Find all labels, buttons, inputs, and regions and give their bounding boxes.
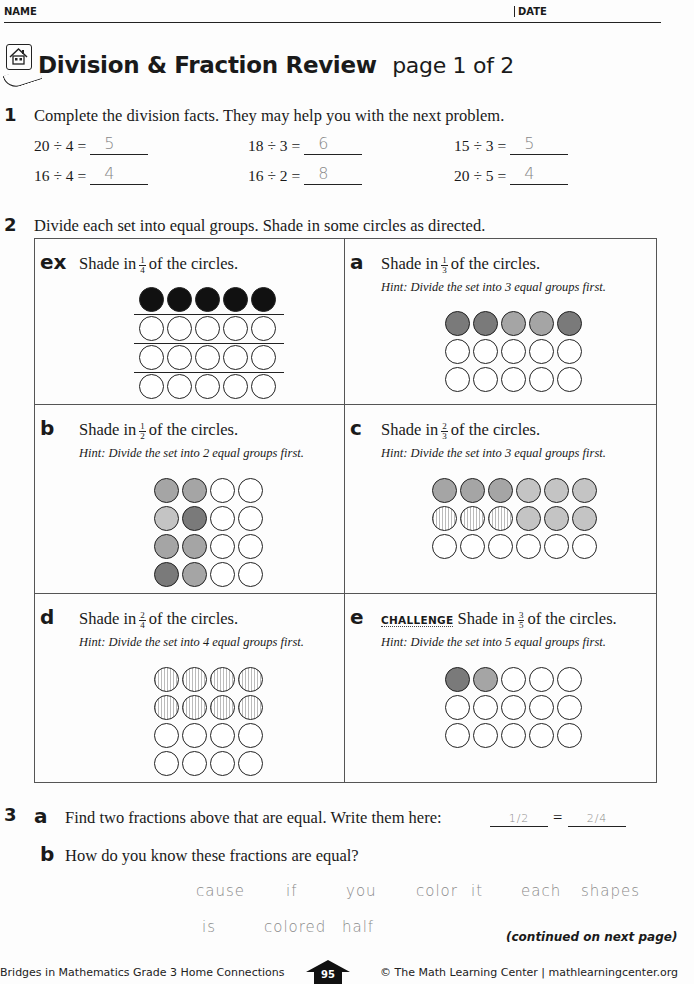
circle <box>210 695 235 720</box>
circle <box>182 751 207 776</box>
answer-field[interactable]: 4 <box>90 164 148 185</box>
circle <box>544 534 569 559</box>
circle <box>210 506 235 531</box>
circle <box>182 506 207 531</box>
circle <box>572 534 597 559</box>
circle <box>529 339 554 364</box>
circle <box>195 345 220 370</box>
circle <box>473 695 498 720</box>
circle <box>557 367 582 392</box>
circle <box>529 667 554 692</box>
circle <box>445 311 470 336</box>
circle <box>572 506 597 531</box>
circle <box>445 339 470 364</box>
cell-e-instruction: CHALLENGE Shade in35of the circles. <box>381 609 617 630</box>
circle <box>460 534 485 559</box>
circle <box>501 339 526 364</box>
circle <box>182 534 207 559</box>
circle <box>473 723 498 748</box>
circle <box>460 478 485 503</box>
circle-set-d <box>154 667 263 776</box>
circle <box>210 667 235 692</box>
cell-d-hint: Hint: Divide the set into 4 equal groups… <box>79 635 304 650</box>
name-label: NAME <box>4 6 37 17</box>
circle <box>445 367 470 392</box>
circle <box>432 534 457 559</box>
circle <box>210 562 235 587</box>
q3a-answer-1[interactable]: 1/2 <box>490 808 548 827</box>
circle <box>195 287 220 312</box>
circle <box>182 562 207 587</box>
cell-c-instruction: Shade in23of the circles. <box>381 420 540 441</box>
circle <box>501 695 526 720</box>
circle <box>445 667 470 692</box>
answer-field[interactable]: 6 <box>304 134 362 155</box>
circle <box>223 345 248 370</box>
circle <box>251 316 276 341</box>
answer-field[interactable]: 4 <box>510 164 568 185</box>
circle <box>529 311 554 336</box>
date-label: DATE <box>514 6 547 17</box>
circle <box>167 374 192 399</box>
circle <box>501 723 526 748</box>
circle <box>154 562 179 587</box>
continued-note: (continued on next page) <box>506 930 677 944</box>
cell-e-letter: e <box>350 605 364 629</box>
circle <box>544 506 569 531</box>
q3-number: 3 <box>4 804 17 825</box>
circle <box>238 562 263 587</box>
circle <box>529 723 554 748</box>
group-line <box>134 314 284 315</box>
q3b-answer-line-2[interactable]: is colored half <box>202 918 374 936</box>
circle <box>154 695 179 720</box>
circle <box>445 695 470 720</box>
circle <box>182 695 207 720</box>
circle <box>501 667 526 692</box>
group-line <box>134 343 284 344</box>
q3a-answer-2[interactable]: 2/4 <box>568 808 626 827</box>
fact-6: 20 ÷ 5 =4 <box>454 164 568 185</box>
circle <box>473 311 498 336</box>
answer-field[interactable]: 5 <box>90 134 148 155</box>
fact-2: 18 ÷ 3 =6 <box>248 134 362 155</box>
circle <box>238 478 263 503</box>
page-number: 95 <box>306 969 350 980</box>
circle <box>238 506 263 531</box>
cell-b-instruction: Shade in12of the circles. <box>79 420 238 441</box>
cell-b-hint: Hint: Divide the set into 2 equal groups… <box>79 446 304 461</box>
circle <box>488 534 513 559</box>
circle <box>154 667 179 692</box>
circle <box>473 339 498 364</box>
cell-c-hint: Hint: Divide the set into 3 equal groups… <box>381 446 606 461</box>
answer-field[interactable]: 8 <box>304 164 362 185</box>
circle <box>544 478 569 503</box>
name-date-line <box>4 22 661 23</box>
q3b-letter: b <box>40 842 54 866</box>
cell-a-instruction: Shade in13of the circles. <box>381 254 540 275</box>
circle <box>195 374 220 399</box>
q3b-answer-line-1[interactable]: cause if you color it each shapes <box>196 882 640 900</box>
circle <box>167 316 192 341</box>
answer-field[interactable]: 5 <box>510 134 568 155</box>
circle <box>501 311 526 336</box>
circle <box>238 751 263 776</box>
circle <box>182 723 207 748</box>
circle <box>251 374 276 399</box>
grid-divider-row2 <box>34 593 657 594</box>
circle <box>167 287 192 312</box>
circle <box>154 478 179 503</box>
q3a-equals: = <box>553 808 562 828</box>
circle <box>557 667 582 692</box>
title-sub: page 1 of 2 <box>392 53 514 78</box>
circle <box>139 345 164 370</box>
cell-ex-instruction: Shade in14of the circles. <box>79 254 238 275</box>
circle <box>488 506 513 531</box>
circle <box>445 723 470 748</box>
circle <box>488 478 513 503</box>
circle-set-e <box>445 667 582 748</box>
circle <box>557 339 582 364</box>
q2-prompt: Divide each set into equal groups. Shade… <box>34 216 485 236</box>
page-number-badge: 95 <box>306 960 350 984</box>
circle <box>182 478 207 503</box>
cell-a-hint: Hint: Divide the set into 3 equal groups… <box>381 280 606 295</box>
